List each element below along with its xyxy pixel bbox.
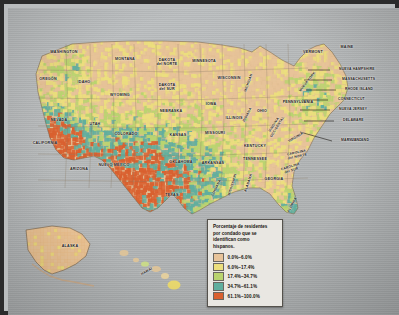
state-label: TENNESSEE (243, 158, 267, 162)
map-canvas: WASHINGTONOREGÓNIDAHOMONTANAWYOMINGNEVAD… (8, 8, 399, 315)
state-label: NUEVA JERSEY (339, 108, 367, 112)
state-label: PENNSYLVANIA (283, 101, 314, 105)
state-label: WYOMING (110, 94, 130, 98)
state-label: NUEVA HAMPSHIRE (339, 68, 375, 72)
legend-swatch (213, 292, 224, 301)
state-label: MARYLAND (341, 139, 362, 143)
state-label: ALASKA (62, 245, 79, 249)
state-label: TEXAS (165, 194, 178, 198)
state-label: IDAHO (78, 81, 91, 85)
legend-swatch (213, 253, 224, 262)
legend-row: 61.1%–100.0% (213, 292, 278, 301)
legend-label: 0.0%–6.0% (228, 255, 252, 260)
state-label: DAKOTA del NORTE (156, 59, 177, 67)
state-label: ARIZONA (70, 168, 88, 172)
state-label: GEORGIA (265, 178, 284, 182)
legend-label: 34.7%–61.1% (228, 284, 258, 289)
legend-swatch (213, 263, 224, 272)
state-label: WISCONSIN (217, 77, 240, 81)
state-label: NEVADA (51, 119, 68, 123)
legend-label: 61.1%–100.0% (228, 294, 260, 299)
state-label: CALIFORNIA (33, 142, 58, 146)
state-label: ARKANSAS (202, 162, 225, 166)
legend-title: Porcentaje de residentes por condado que… (213, 224, 278, 250)
state-label: KENTUCKY (244, 145, 266, 149)
state-label: WASHINGTON (50, 51, 77, 55)
state-label: DAKOTA del SUR (159, 84, 176, 92)
legend-label: 17.4%–34.7% (228, 274, 258, 279)
state-label: COLORADO (114, 133, 137, 137)
legend-swatch (213, 282, 224, 291)
map-frame: WASHINGTONOREGÓNIDAHOMONTANAWYOMINGNEVAD… (0, 0, 399, 315)
legend-row: 6.0%–17.4% (213, 263, 278, 272)
state-label: OREGÓN (39, 78, 57, 82)
legend-row: 17.4%–34.7% (213, 272, 278, 281)
legend-row: 34.7%–61.1% (213, 282, 278, 291)
state-label: VERMONT (303, 51, 323, 55)
legend-label: 6.0%–17.4% (228, 265, 255, 270)
state-label: MINNESOTA (192, 60, 216, 64)
map-legend: Porcentaje de residentes por condado que… (207, 219, 283, 307)
state-label: RHODE ISLAND (345, 88, 373, 92)
state-label: MAINE (341, 46, 354, 50)
state-label: DELAWARE (343, 119, 364, 123)
legend-swatch (213, 272, 224, 281)
state-label: CONNECTICUT (338, 98, 365, 102)
legend-entries: 0.0%–6.0%6.0%–17.4%17.4%–34.7%34.7%–61.1… (213, 253, 278, 300)
state-label: ILLINOIS (225, 117, 242, 121)
legend-row: 0.0%–6.0% (213, 253, 278, 262)
state-label: UTAH (90, 123, 101, 127)
state-label: OKLAHOMA (169, 161, 192, 165)
state-label: OHIO (257, 110, 267, 114)
state-label: NEBRASKA (160, 110, 183, 114)
state-label: MASSACHUSETTS (342, 78, 375, 82)
state-label: NUEVO MÉXICO (98, 164, 129, 168)
legend-title-line-4: hispanos. (213, 244, 278, 251)
state-label: IOWA (206, 103, 217, 107)
state-label: MONTANA (115, 58, 135, 62)
state-label: MISSOURI (205, 132, 225, 136)
state-label: KANSAS (170, 134, 187, 138)
